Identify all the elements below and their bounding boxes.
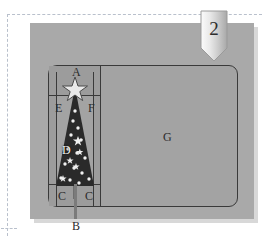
label-f: F <box>88 102 95 114</box>
label-a: A <box>72 66 81 78</box>
label-c-left: C <box>58 190 66 202</box>
figure-canvas: A E F D C C B G 2 <box>0 0 270 244</box>
label-b: B <box>72 220 80 232</box>
ribbon-banner-icon: 2 <box>199 10 229 63</box>
label-e: E <box>55 102 62 114</box>
label-g: G <box>163 131 172 143</box>
label-c-right: C <box>85 190 93 202</box>
trunk-extension <box>74 184 77 219</box>
ribbon-svg <box>199 10 229 63</box>
dashed-guide-foot <box>1 228 17 229</box>
label-d: D <box>62 144 71 156</box>
